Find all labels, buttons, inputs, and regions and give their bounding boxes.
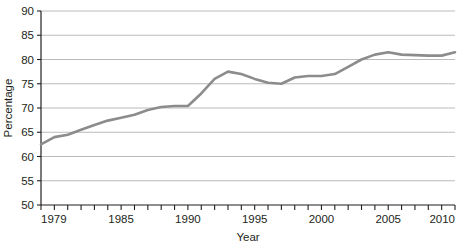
x-axis-tick-label: 2010: [429, 213, 455, 225]
line-chart: 505560657075808590 197919851990199520002…: [0, 0, 464, 246]
y-axis-tick-label: 50: [21, 199, 34, 211]
y-axis-title: Percentage: [2, 79, 14, 138]
x-axis-tick-label: 1995: [242, 213, 268, 225]
y-axis-tick-label: 85: [21, 29, 34, 41]
x-axis-tick-label: 1979: [41, 213, 67, 225]
x-axis-tick-label: 2005: [375, 213, 401, 225]
data-series-line: [41, 52, 455, 144]
x-axis-tick-label: 2000: [309, 213, 335, 225]
y-axis-tick-label: 60: [21, 151, 34, 163]
x-axis-tick-label: 1990: [175, 213, 201, 225]
y-axis-tick-label: 90: [21, 5, 34, 17]
y-axis-tick-label: 80: [21, 54, 34, 66]
y-axis-tick-label: 55: [21, 175, 34, 187]
y-axis-tick-label: 65: [21, 126, 34, 138]
y-axis-tick-label: 70: [21, 102, 34, 114]
x-axis-tick-label: 1985: [108, 213, 134, 225]
chart-canvas: 505560657075808590 197919851990199520002…: [0, 0, 464, 246]
x-axis-ticks: [41, 205, 455, 210]
x-axis-tick-labels: 1979198519901995200020052010: [41, 213, 455, 225]
y-axis-tick-labels: 505560657075808590: [21, 5, 34, 211]
x-axis-title: Year: [236, 231, 259, 243]
gridlines-group: [41, 11, 455, 181]
y-axis-tick-label: 75: [21, 78, 34, 90]
